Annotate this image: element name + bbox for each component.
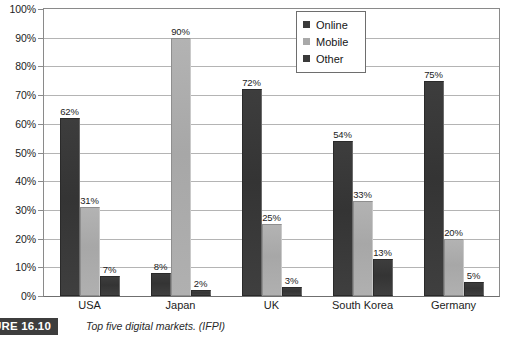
bar-online[interactable]: 75% [424,81,444,296]
bar-mobile[interactable]: 90% [171,38,191,296]
bar-mobile[interactable]: 25% [262,224,282,296]
x-axis-label-japan: Japan [166,299,196,311]
chart-area: 100%90%80%70%60%50%40%30%20%10%0% 62%31%… [0,0,511,316]
bar-value-label: 7% [103,264,116,275]
figure-number-badge: URE 16.10 [0,318,58,335]
x-axis-label-uk: UK [264,299,279,311]
bar-group: 8%90%2% [135,9,226,296]
bar-value-label: 13% [373,247,391,258]
y-axis-tick-label: 80% [15,60,36,72]
bar-value-label: 2% [194,278,207,289]
bar-value-label: 31% [80,195,98,206]
bar-group: 75%20%5% [408,9,499,296]
bar-value-label: 8% [154,261,167,272]
y-axis-tick-label: 40% [15,175,36,187]
y-axis-tick-label: 50% [15,147,36,159]
bar-other[interactable]: 2% [191,290,211,296]
figure-caption: URE 16.10 Top five digital markets. (IFP… [0,318,511,336]
bar-value-label: 75% [424,69,442,80]
figure-container: 100%90%80%70%60%50%40%30%20%10%0% 62%31%… [0,0,511,339]
bar-value-label: 62% [60,106,78,117]
bar-mobile[interactable]: 33% [353,201,373,296]
x-axis-label-usa: USA [78,299,101,311]
bar-mobile[interactable]: 31% [80,207,100,296]
bar-value-label: 20% [444,227,462,238]
x-axis-label-germany: Germany [431,299,476,311]
y-axis-tick-label: 10% [15,261,36,273]
y-axis-tick-label: 0% [21,290,36,302]
legend-swatch-icon [303,55,310,62]
y-axis-tick-label: 20% [15,233,36,245]
figure-caption-text: Top five digital markets. (IFPI) [86,318,225,335]
x-axis-category-labels: USAJapanUKSouth KoreaGermany [44,299,499,317]
bar-online[interactable]: 54% [333,141,353,296]
y-axis-tick-label: 90% [15,32,36,44]
legend-item-label: Mobile [316,36,348,48]
y-axis-tick-label: 70% [15,89,36,101]
bar-value-label: 90% [171,26,189,37]
bar-online[interactable]: 62% [60,118,80,296]
bar-value-label: 33% [353,189,371,200]
legend-item-label: Online [316,19,348,31]
legend-swatch-icon [303,38,310,45]
legend-item-mobile[interactable]: Mobile [303,33,358,50]
chart-legend: OnlineMobileOther [296,11,366,73]
bar-value-label: 54% [333,129,351,140]
bar-value-label: 3% [285,275,298,286]
bar-mobile[interactable]: 20% [444,239,464,296]
bar-value-label: 72% [242,77,260,88]
bar-online[interactable]: 72% [242,89,262,296]
bar-other[interactable]: 5% [464,282,484,296]
legend-swatch-icon [303,21,310,28]
x-axis-label-south-korea: South Korea [332,299,393,311]
y-axis-tick-label: 30% [15,204,36,216]
y-axis: 100%90%80%70%60%50%40%30%20%10%0% [0,0,41,305]
y-axis-tick-label: 100% [10,3,36,15]
bar-group: 62%31%7% [44,9,135,296]
bar-other[interactable]: 3% [282,287,302,296]
legend-item-other[interactable]: Other [303,50,358,67]
bars-layer: 62%31%7%8%90%2%72%25%3%54%33%13%75%20%5% [44,9,499,296]
legend-item-label: Other [316,53,344,65]
bar-value-label: 5% [467,270,480,281]
bar-other[interactable]: 7% [100,276,120,296]
legend-item-online[interactable]: Online [303,16,358,33]
y-axis-tick-label: 60% [15,118,36,130]
bar-online[interactable]: 8% [151,273,171,296]
bar-value-label: 25% [262,212,280,223]
bar-other[interactable]: 13% [373,259,393,296]
